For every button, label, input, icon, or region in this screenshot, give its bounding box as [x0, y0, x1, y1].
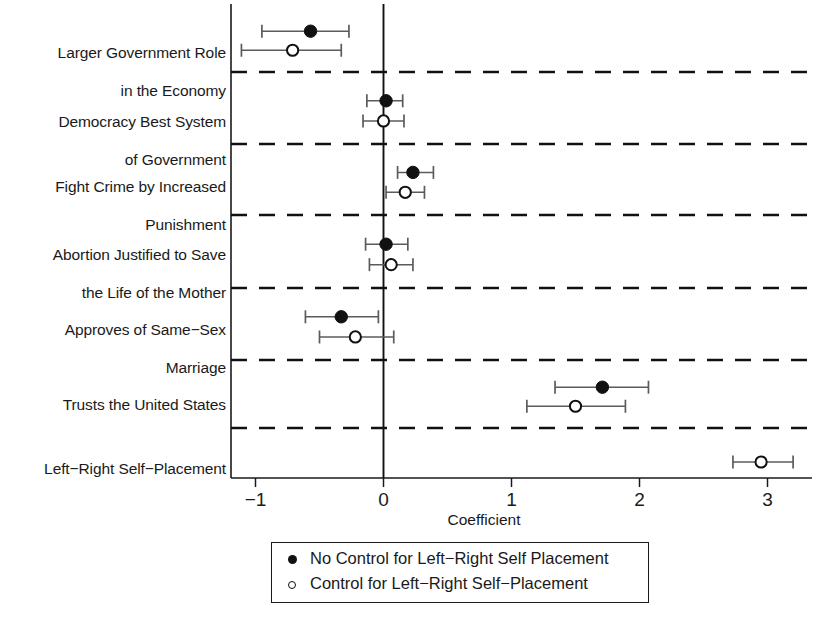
estimate-mark — [366, 238, 408, 251]
x-tick-label-3: 2 — [615, 489, 664, 511]
x-tick-label-1: 0 — [359, 489, 408, 511]
estimate-mark — [305, 310, 378, 323]
legend-item-0: No Control for Left−Right Self Placement — [283, 549, 609, 568]
estimate-mark — [369, 258, 413, 271]
estimate-mark — [527, 400, 626, 413]
open-circle-icon — [283, 574, 301, 593]
estimate-mark — [555, 381, 648, 394]
estimate-mark — [386, 186, 424, 199]
plot-area — [0, 0, 823, 520]
x-axis-ticks — [256, 478, 768, 487]
filled-circle-icon — [283, 549, 301, 568]
row-separators — [231, 72, 812, 428]
x-tick-label-2: 1 — [487, 489, 536, 511]
estimate-mark — [398, 166, 434, 179]
estimate-mark — [241, 44, 341, 57]
estimate-mark — [262, 25, 349, 38]
estimate-mark — [363, 114, 404, 127]
legend-item-1: Control for Left−Right Self−Placement — [283, 574, 588, 593]
estimate-mark — [733, 456, 793, 469]
x-tick-label-4: 3 — [743, 489, 792, 511]
coefficient-plot-figure: Larger Government Role in the Economy De… — [0, 0, 823, 641]
legend-item-0-label: No Control for Left−Right Self Placement — [310, 549, 609, 568]
x-axis-title: Coefficient — [434, 511, 534, 529]
data-marks-group — [241, 25, 793, 469]
legend: No Control for Left−Right Self Placement… — [271, 542, 649, 603]
estimate-mark — [367, 94, 403, 107]
x-tick-label-0: −1 — [231, 489, 280, 511]
legend-item-1-label: Control for Left−Right Self−Placement — [310, 574, 588, 593]
